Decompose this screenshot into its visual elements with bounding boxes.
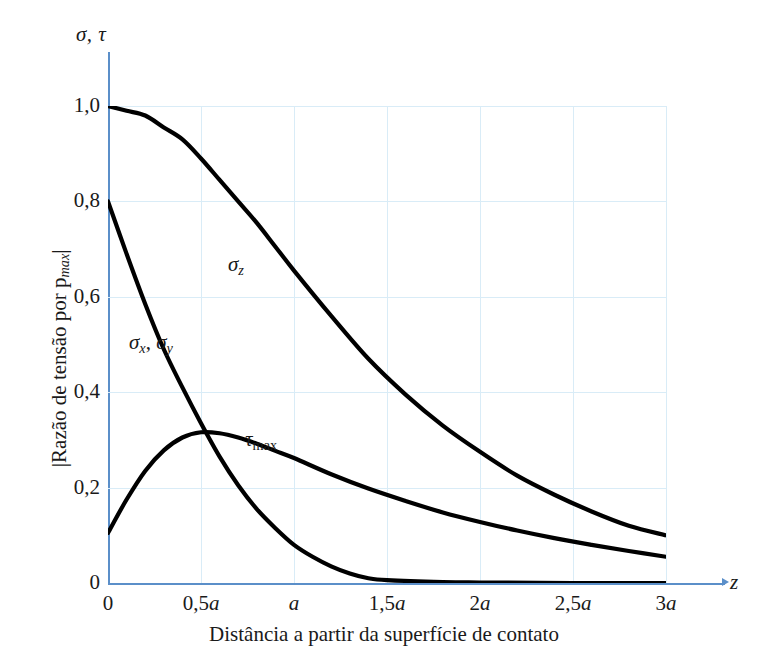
curve-label-tau-max: τmax xyxy=(245,427,277,454)
curve-tau_max xyxy=(108,432,666,557)
gridline-vertical xyxy=(666,106,667,583)
y-axis-title: |Razão de tensão por pmax| xyxy=(47,148,74,568)
x-tick-label: 2a xyxy=(445,592,515,614)
x-axis-symbol: z xyxy=(730,570,738,595)
x-tick-label: 3a xyxy=(631,592,701,614)
x-tick-label: 0,5a xyxy=(166,592,236,614)
x-tick-label: 0 xyxy=(73,592,143,614)
x-tick-label: a xyxy=(259,592,329,614)
curve-sigma_z xyxy=(108,106,666,535)
x-axis-line xyxy=(108,583,725,585)
curve-label-sigma-z: σz xyxy=(228,252,244,279)
curve-label-sigma-x-sigma-y: σx, σy xyxy=(129,330,173,357)
y-tick-label: 0 xyxy=(52,572,100,593)
y-tick-label: 1,0 xyxy=(52,95,100,116)
x-axis-title: Distância a partir da superfície de cont… xyxy=(0,622,768,647)
chart-figure: σ, τ z 00,20,40,60,81,0 00,5aa1,5a2a2,5a… xyxy=(0,0,768,667)
x-axis-arrowhead xyxy=(722,578,729,586)
curve-layer xyxy=(108,106,666,583)
x-tick-label: 2,5a xyxy=(538,592,608,614)
curve-sigma_x_sigma_y xyxy=(108,201,666,583)
x-tick-label: 1,5a xyxy=(352,592,422,614)
plot-area xyxy=(108,106,666,583)
